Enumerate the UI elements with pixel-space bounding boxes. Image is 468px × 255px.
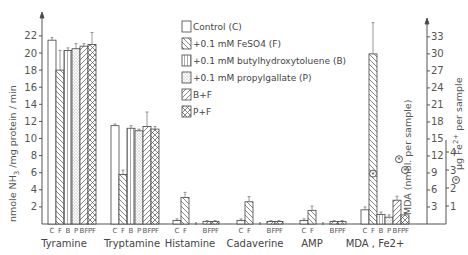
y-tick-label: 16: [24, 82, 37, 93]
legend-item: B+F: [182, 89, 212, 100]
y-tick-label: 10: [24, 133, 37, 144]
bar-bf: [267, 221, 275, 224]
legend-label: B+F: [193, 90, 212, 100]
right-tick-label: 18: [431, 116, 444, 127]
right-tick-label: 6: [431, 184, 437, 195]
legend-item: P+F: [182, 106, 211, 117]
legend: Control (C)+0.1 mM FeSO4 (F)+0.1 mM buty…: [182, 21, 346, 117]
legend-label: Control (C): [193, 22, 242, 32]
bar-label: C: [50, 227, 55, 235]
bar-bf: [80, 46, 88, 224]
legend-label: +0.1 mM FeSO4 (F): [193, 39, 281, 49]
bar-c: [300, 221, 308, 224]
bar-chart: *** 246810121416182022369121518212427303…: [0, 0, 468, 255]
legend-label: +0.1 mM butylhydroxytoluene (B): [193, 56, 346, 66]
svg-text:*: *: [397, 156, 401, 164]
right-tick-label: 15: [431, 133, 444, 144]
legend-swatch: [182, 55, 191, 66]
left-axis-label: nmole NH3 /mg protein / min: [7, 85, 21, 222]
y-tick-label: 22: [24, 30, 37, 41]
category-labels: CFBPBFPFTyramineCFBPBFPFTryptamineCFBFPF…: [40, 227, 409, 249]
bar-f: [181, 197, 189, 224]
right-axis-label: MDA (nmol. per sample): [402, 100, 413, 215]
legend-label: +0.1 mM propylgallate (P): [193, 73, 312, 83]
bar-label: B: [379, 227, 384, 235]
legend-item: Control (C): [182, 21, 242, 32]
bar-label: PF: [151, 227, 159, 235]
bar-label: C: [363, 227, 368, 235]
bar-label: PF: [88, 227, 96, 235]
legend-swatch: [182, 21, 191, 32]
bar-f: [369, 54, 377, 224]
bar-b: [64, 50, 72, 224]
bar-pf: [211, 221, 219, 224]
bar-bf: [393, 200, 401, 224]
bar-label: P: [387, 227, 391, 235]
bars: ***: [48, 23, 409, 225]
right-tick-label: 21: [431, 99, 444, 110]
bar-label: P: [137, 227, 141, 235]
bar-label: C: [175, 227, 180, 235]
bar-f: [119, 174, 127, 224]
bar-b: [377, 214, 385, 224]
bar-label: B: [129, 227, 134, 235]
bar-f: [245, 202, 253, 224]
svg-text:*: *: [454, 177, 458, 185]
legend-swatch: [182, 38, 191, 49]
bar-pf: [151, 129, 159, 224]
y-tick-label: 12: [24, 116, 37, 127]
bar-c: [173, 221, 181, 224]
bar-c: [111, 126, 119, 224]
right-tick-label: 27: [431, 65, 444, 76]
legend-item: +0.1 mM butylhydroxytoluene (B): [182, 55, 346, 66]
bar-label: F: [183, 227, 187, 235]
bar-label: F: [58, 227, 62, 235]
y-tick-label: 14: [24, 99, 37, 110]
bar-p: [385, 217, 393, 224]
bar-c: [48, 40, 56, 224]
right-tick-label: 30: [431, 48, 444, 59]
bar-c: [361, 210, 369, 224]
bar-p: [135, 131, 143, 224]
bar-pf: [275, 221, 283, 224]
bar-pf: [88, 44, 96, 224]
legend-item: +0.1 mM FeSO4 (F): [182, 38, 281, 49]
y-tick-label: 6: [31, 167, 37, 178]
legend-item: +0.1 mM propylgallate (P): [182, 72, 312, 83]
bar-label: F: [121, 227, 125, 235]
bar-f: [308, 210, 316, 224]
svg-text:*: *: [371, 171, 375, 179]
legend-swatch: [182, 89, 191, 100]
y-tick-label: 18: [24, 65, 37, 76]
right-tick-label: 3: [431, 201, 437, 212]
bar-label: P: [74, 227, 78, 235]
bar-pf: [401, 215, 409, 224]
fe-marker-legend-icon: *: [453, 177, 460, 186]
right-axis2-label: µg Fe2+ per sample: [452, 77, 464, 170]
y-tick-label: 2: [31, 201, 37, 212]
bar-pf: [338, 221, 346, 224]
bar-label: C: [239, 227, 244, 235]
category-label: Tryptamine: [103, 238, 160, 249]
bar-label: PF: [211, 227, 219, 235]
bar-label: B: [66, 227, 71, 235]
category-label: Tyramine: [40, 238, 87, 249]
legend-label: P+F: [193, 107, 211, 117]
right-tick-label: 33: [431, 31, 444, 42]
category-label: Cadaverine: [226, 238, 283, 249]
bar-label: C: [302, 227, 307, 235]
legend-swatch: [182, 72, 191, 83]
y-tick-label: 20: [24, 48, 37, 59]
bar-bf: [330, 221, 338, 224]
right2-tick-label: 1: [450, 201, 456, 212]
legend-swatch: [182, 106, 191, 117]
bar-p: [72, 49, 80, 224]
bar-label: PF: [401, 227, 409, 235]
bar-bf: [203, 221, 211, 224]
bar-f: [56, 70, 64, 224]
right-tick-label: 12: [431, 150, 444, 161]
bar-label: PF: [338, 227, 346, 235]
bar-c: [237, 221, 245, 224]
right-tick-label: 24: [431, 82, 444, 93]
bar-b: [127, 128, 135, 224]
